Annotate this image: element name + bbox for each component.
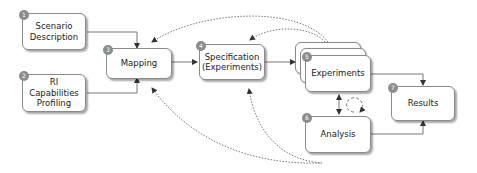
edge-analysis-to-results <box>371 121 423 134</box>
step-badge: 1 <box>19 10 29 20</box>
edge-experiments-to-specification-dotted <box>250 29 325 42</box>
node-results: 7 Results <box>391 86 455 121</box>
edge-experiments-to-mapping-dotted <box>152 16 328 42</box>
step-badge: 5 <box>302 52 312 62</box>
loop-arrow <box>347 98 363 112</box>
node-scenario-description: 1 Scenario Description <box>22 13 86 50</box>
node-analysis: 6 Analysis <box>305 116 371 153</box>
step-badge: 3 <box>103 45 113 55</box>
step-badge: 6 <box>302 113 312 123</box>
node-label: Specification (Experiments) <box>202 52 262 73</box>
node-label: Mapping <box>121 58 157 69</box>
step-badge: 2 <box>19 71 29 81</box>
edge-analysis-to-mapping-dotted <box>152 88 320 163</box>
node-label: Scenario Description <box>30 21 78 42</box>
step-badge: 7 <box>388 83 398 93</box>
node-ri-capabilities-profiling: 2 RI Capabilities Profiling <box>22 74 86 112</box>
node-label: Analysis <box>320 129 355 140</box>
node-label: RI Capabilities Profiling <box>29 77 79 109</box>
edge-scenario-to-mapping <box>87 32 137 48</box>
step-badge: 4 <box>196 41 206 51</box>
node-label: Experiments <box>311 68 365 79</box>
node-specification: 4 Specification (Experiments) <box>199 44 265 80</box>
node-label: Results <box>408 98 439 109</box>
edge-capabilities-to-mapping <box>87 78 137 93</box>
edge-experiments-to-results <box>371 74 423 85</box>
node-experiments: 5 Experiments <box>305 55 371 92</box>
node-mapping: 3 Mapping <box>106 48 172 79</box>
